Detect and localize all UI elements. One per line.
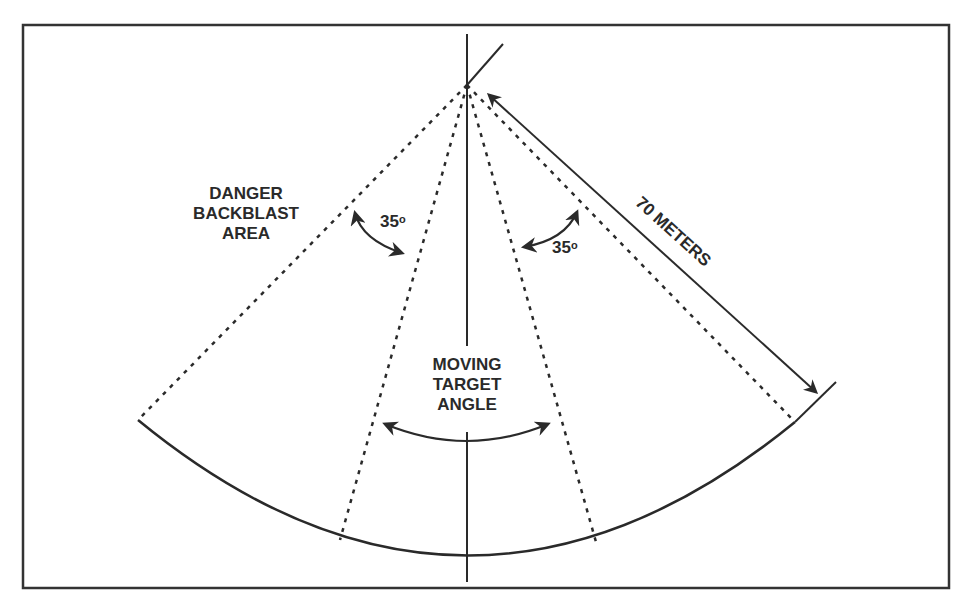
left-angle-degree-symbol: o xyxy=(399,213,406,225)
danger-area-line-2: BACKBLAST xyxy=(180,204,312,224)
backblast-diagram xyxy=(0,0,968,612)
inner-left-boundary xyxy=(340,85,467,540)
range-tick-bottom xyxy=(795,382,836,422)
right-angle-degree-symbol: o xyxy=(571,239,578,251)
moving-target-line-2: TARGET xyxy=(404,375,530,395)
range-tick-top xyxy=(467,44,503,85)
moving-target-label: MOVING TARGET ANGLE xyxy=(404,355,530,415)
moving-target-line-3: ANGLE xyxy=(404,395,530,415)
danger-area-label: DANGER BACKBLAST AREA xyxy=(180,184,312,244)
left-angle-label: 35o xyxy=(380,212,406,232)
moving-target-line-1: MOVING xyxy=(404,355,530,375)
danger-area-line-1: DANGER xyxy=(180,184,312,204)
inner-right-boundary xyxy=(467,85,596,542)
left-angle-value: 35 xyxy=(380,212,399,231)
danger-area-line-3: AREA xyxy=(180,224,312,244)
right-angle-label: 35o xyxy=(552,238,578,258)
right-angle-value: 35 xyxy=(552,238,571,257)
figure-border xyxy=(23,25,949,588)
